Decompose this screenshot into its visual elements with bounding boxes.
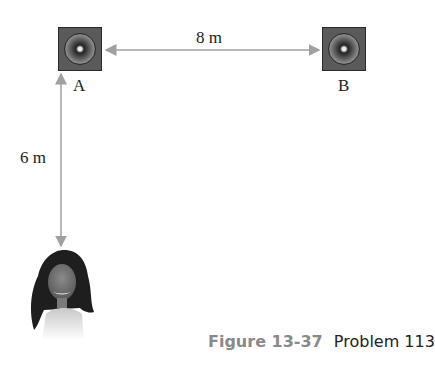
figure-caption: Figure 13-37 Problem 113: [208, 332, 435, 351]
speaker-b: [322, 27, 366, 71]
speaker-a-label: A: [73, 76, 85, 96]
horizontal-distance-label: 8 m: [196, 28, 222, 48]
vertical-distance-label: 6 m: [20, 148, 46, 168]
listener-person-icon: [24, 248, 100, 340]
speaker-cone-icon: [328, 33, 360, 65]
figure-number: Figure 13-37: [208, 332, 323, 351]
speaker-cone-icon: [64, 33, 96, 65]
problem-number: Problem 113: [334, 332, 435, 351]
speaker-a: [58, 27, 102, 71]
speaker-b-label: B: [338, 76, 349, 96]
